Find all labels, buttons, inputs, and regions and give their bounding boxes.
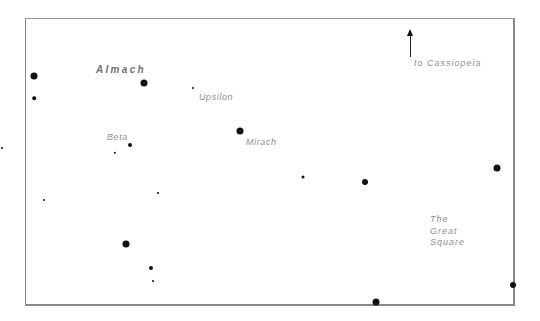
- label-cassiopeia: to Cassiopeia: [414, 59, 482, 68]
- star-dot: [32, 96, 36, 100]
- label-great-square: The Great Square: [430, 214, 465, 249]
- star-dot: [494, 165, 501, 172]
- label-almach: Almach: [96, 65, 146, 75]
- star-dot: [152, 280, 154, 282]
- star-dot: [149, 266, 153, 270]
- label-upsilon: Upsilon: [199, 93, 233, 102]
- arrow-shaft: [410, 34, 411, 57]
- star-dot: [373, 299, 380, 306]
- star-dot: [302, 176, 305, 179]
- star-dot: [157, 192, 159, 194]
- star-chart: Almach Upsilon Beta Mirach to Cassiopeia…: [0, 0, 540, 321]
- star-dot: [128, 143, 132, 147]
- star-dot: [31, 73, 38, 80]
- star-dot: [510, 282, 516, 288]
- star-dot: [141, 80, 148, 87]
- star-dot: [43, 199, 45, 201]
- label-mirach: Mirach: [246, 138, 277, 147]
- star-dot: [192, 87, 194, 89]
- star-dot: [237, 128, 244, 135]
- label-beta: Beta: [107, 133, 128, 142]
- star-dot: [123, 241, 130, 248]
- star-dot: [362, 179, 368, 185]
- star-dot: [1, 147, 3, 149]
